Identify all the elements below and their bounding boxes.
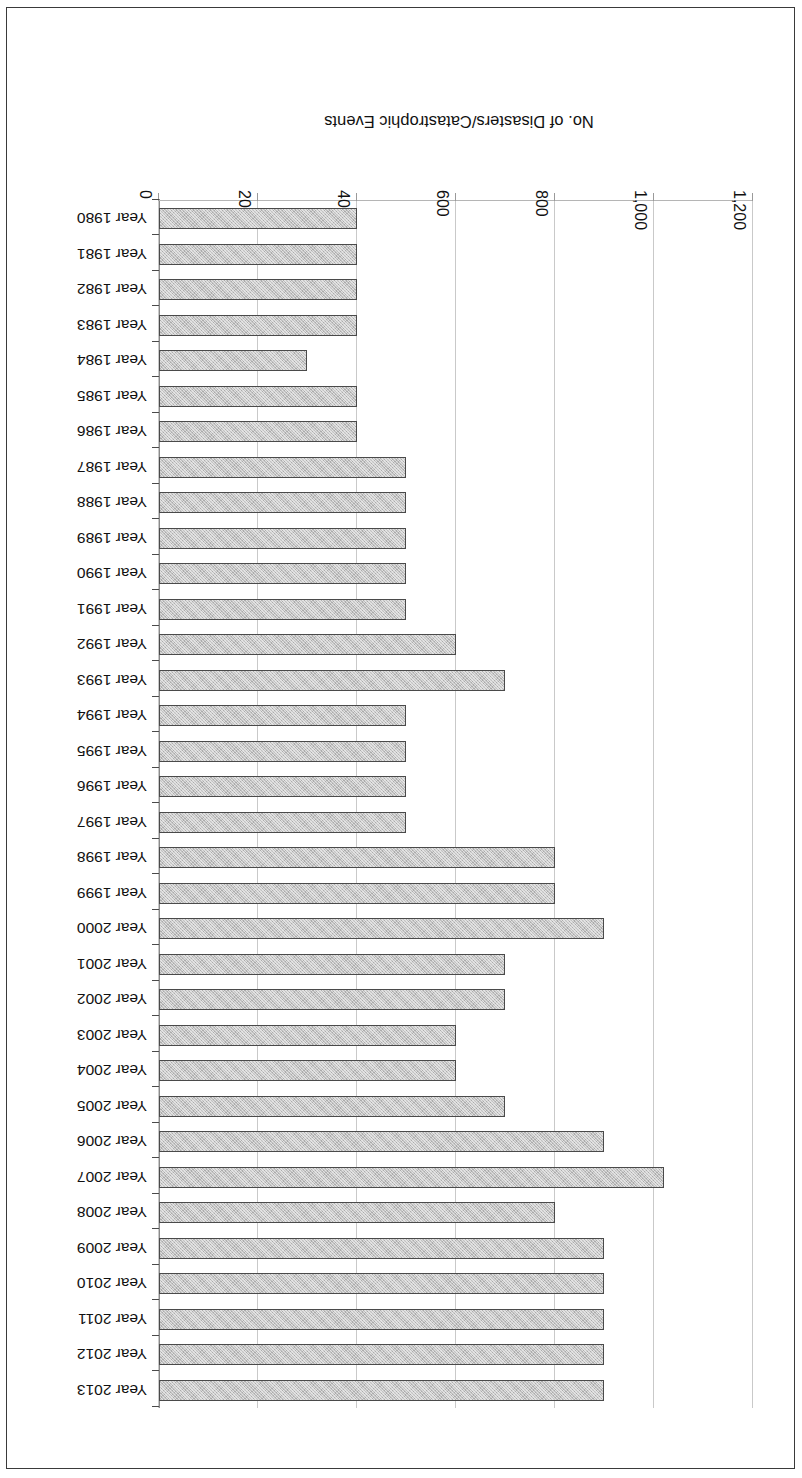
category-label: Year 2006 [77,1134,147,1150]
category-tick-mark [152,306,159,307]
category-tick-mark [152,1122,159,1123]
category-tick-mark [152,1051,159,1052]
category-tick-mark [152,341,159,342]
rotated-figure-stage: 02004006008001,0001,200 Year 1980Year 19… [7,8,802,1478]
category-label: Year 1991 [77,602,147,618]
bar[interactable] [159,209,357,230]
category-label: Year 2009 [77,1241,147,1257]
category-tick-mark [152,874,159,875]
category-tick-mark [152,732,159,733]
category-label: Year 2000 [77,921,147,937]
category-tick-mark [152,377,159,378]
bar[interactable] [159,244,357,265]
category-tick-mark [152,1406,159,1407]
category-tick-mark [152,270,159,271]
bar[interactable] [159,493,407,514]
category-label: Year 1994 [77,708,147,724]
bar[interactable] [159,315,357,336]
category-label: Year 2002 [77,992,147,1008]
category-tick-mark [152,625,159,626]
category-label: Year 1998 [77,850,147,866]
bar[interactable] [159,706,407,727]
bar[interactable] [159,1025,456,1046]
category-label: Year 1996 [77,779,147,795]
bar[interactable] [159,528,407,549]
bar[interactable] [159,848,555,869]
bar[interactable] [159,1274,605,1295]
category-tick-mark [152,803,159,804]
category-label: Year 2005 [77,1099,147,1115]
category-tick-mark [152,1087,159,1088]
bar[interactable] [159,1380,605,1401]
bar[interactable] [159,883,555,904]
value-tick-label: 0 [137,190,153,199]
bar[interactable] [159,954,506,975]
bar[interactable] [159,1061,456,1082]
category-label: Year 2003 [77,1028,147,1044]
category-tick-mark [152,519,159,520]
category-tick-mark [152,1371,159,1372]
category-label: Year 1985 [77,389,147,405]
bar-chart: 02004006008001,0001,200 Year 1980Year 19… [7,8,802,1478]
bar[interactable] [159,351,308,372]
bar[interactable] [159,1309,605,1330]
category-label: Year 2004 [77,1063,147,1079]
category-tick-mark [152,661,159,662]
bar[interactable] [159,990,506,1011]
bar[interactable] [159,1132,605,1153]
value-tick-mark [752,193,753,201]
category-label: Year 1992 [77,637,147,653]
category-label: Year 1984 [77,353,147,369]
category-tick-mark [152,590,159,591]
bar[interactable] [159,1096,506,1117]
category-label: Year 2011 [78,1312,147,1328]
bar[interactable] [159,457,407,478]
category-label: Year 1999 [77,886,147,902]
bar[interactable] [159,1238,605,1259]
bar[interactable] [159,777,407,798]
bar[interactable] [159,919,605,940]
category-label: Year 1990 [77,566,147,582]
bar[interactable] [159,1345,605,1366]
category-label: Year 1995 [77,744,147,760]
category-tick-mark [152,945,159,946]
category-tick-mark [152,767,159,768]
bar[interactable] [159,564,407,585]
category-label: Year 2008 [77,1205,147,1221]
bar[interactable] [159,1203,555,1224]
category-tick-mark [152,1264,159,1265]
bar[interactable] [159,812,407,833]
category-tick-mark [152,554,159,555]
bar[interactable] [159,1167,664,1188]
category-label: Year 1987 [77,460,147,476]
category-tick-mark [152,1016,159,1017]
scanned-page-frame: 02004006008001,0001,200 Year 1980Year 19… [6,7,795,1469]
category-tick-mark [152,412,159,413]
bar[interactable] [159,599,407,620]
category-label: Year 1980 [77,211,147,227]
category-tick-mark [152,235,159,236]
category-label: Year 1983 [77,318,147,334]
category-label: Year 2010 [77,1276,147,1292]
category-tick-mark [152,1158,159,1159]
bar[interactable] [159,386,357,407]
bar[interactable] [159,741,407,762]
category-label: Year 2013 [77,1383,147,1399]
category-tick-mark [152,1229,159,1230]
bar[interactable] [159,280,357,301]
category-tick-mark [152,483,159,484]
category-tick-mark [152,980,159,981]
category-tick-mark [152,199,159,200]
value-tick-mark [554,193,555,201]
category-tick-mark [152,448,159,449]
bar[interactable] [159,422,357,443]
bar[interactable] [159,670,506,691]
bar[interactable] [159,635,456,656]
category-label: Year 2012 [77,1347,147,1363]
category-label: Year 1989 [77,531,147,547]
category-tick-mark [152,838,159,839]
value-tick-mark [356,193,357,201]
category-label: Year 1986 [77,424,147,440]
category-label: Year 1988 [77,495,147,511]
category-tick-mark [152,909,159,910]
